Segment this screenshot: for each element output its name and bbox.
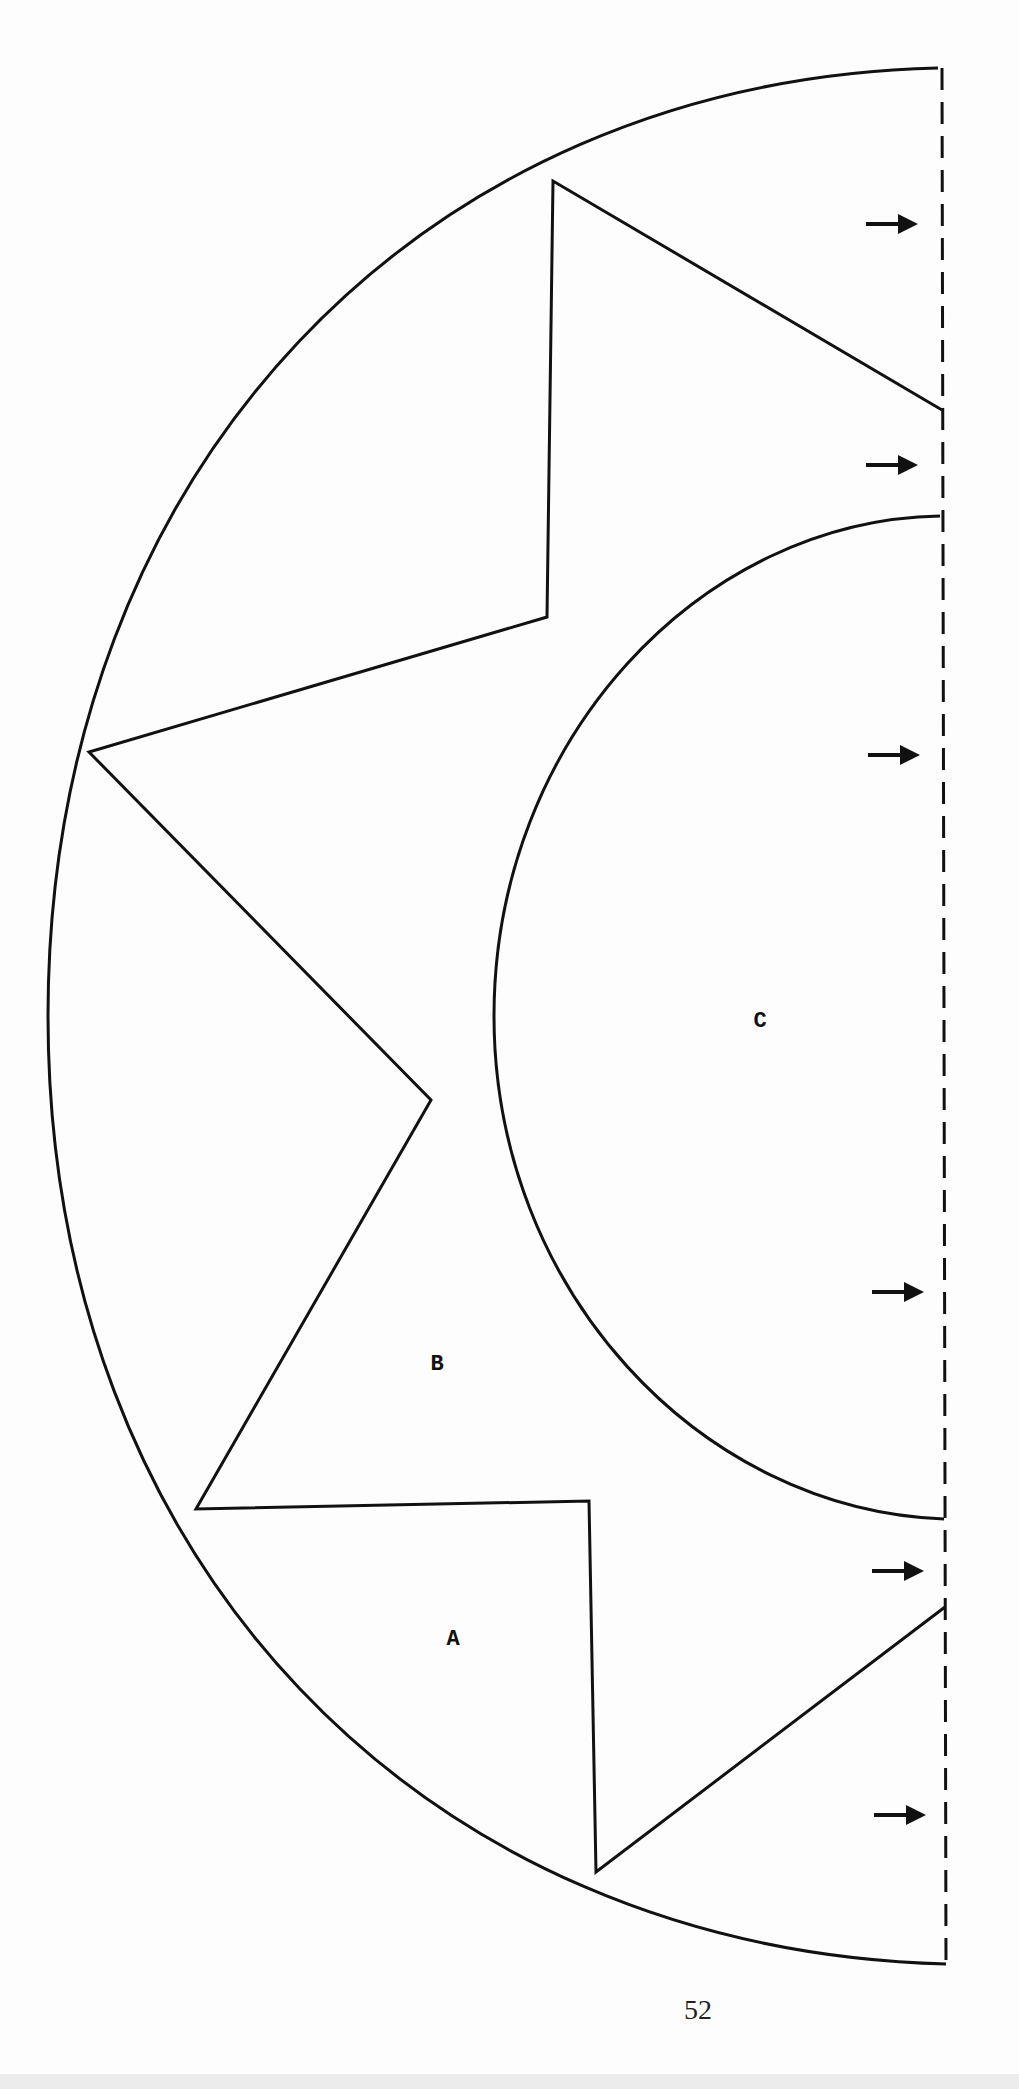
piece-label-a: A — [446, 1629, 459, 1651]
piece-label-b: B — [430, 1354, 443, 1376]
page-edge — [0, 2074, 1019, 2089]
arrow-icon — [874, 1805, 926, 1825]
pattern-page: A B C 52 — [0, 0, 1019, 2089]
page-number: 52 — [684, 1994, 712, 2026]
arrow-icon — [872, 1282, 924, 1302]
arrow-icon — [866, 455, 918, 475]
fold-arrows — [866, 214, 926, 1825]
arrow-icon — [866, 214, 918, 234]
arrow-icon — [868, 745, 920, 765]
arrow-icon — [872, 1561, 924, 1581]
fold-line — [942, 68, 946, 1968]
outer-arc — [48, 68, 946, 1964]
star-outline — [89, 181, 945, 1872]
piece-label-c: C — [753, 1011, 766, 1033]
inner-arc — [494, 516, 944, 1519]
star-pattern-diagram — [0, 0, 1019, 2089]
